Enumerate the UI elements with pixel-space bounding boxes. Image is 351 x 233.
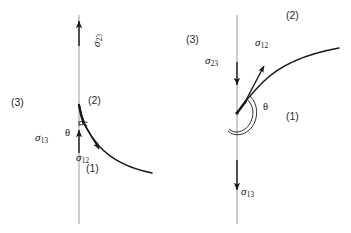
right-theta-label: θ (263, 102, 268, 113)
right-region-1-label: (1) (286, 111, 299, 122)
right-curve-root (237, 101, 246, 113)
left-region-3-label: (3) (11, 97, 24, 108)
left-theta-arc-inner (79, 125, 87, 126)
left-sigma12-arrow (83, 122, 99, 149)
left-region-2-label: (2) (88, 95, 101, 106)
left-theta-label: θ (65, 128, 70, 139)
right-region-3-label: (3) (186, 34, 199, 45)
right-vertex-dot (235, 111, 238, 114)
right-stress-curve (237, 48, 339, 113)
right-sigma13-label: σ13 (241, 186, 254, 197)
right-sigma23-label: σ23 (205, 55, 218, 66)
left-curve-root (79, 105, 84, 123)
left-region-1-label: (1) (86, 163, 99, 174)
right-sigma12-label: σ12 (255, 37, 268, 48)
left-sigma23-label: σ23 (91, 34, 102, 47)
figure-root: σ23 σ13 σ12 θ (1) (2) (3) σ23 σ13 σ12 θ … (0, 0, 351, 233)
right-theta-arc-inner (229, 99, 253, 132)
right-region-2-label: (2) (286, 10, 299, 21)
left-sigma13-label: σ13 (35, 132, 48, 143)
